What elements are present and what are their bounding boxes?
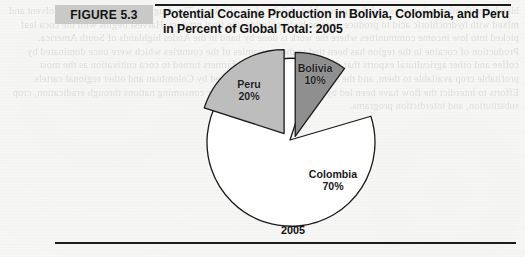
figure-number-badge: FIGURE 5.3 — [55, 5, 153, 24]
figure-number-label: FIGURE 5.3 — [70, 8, 137, 22]
pie-label-colombia-name: Colombia — [296, 168, 370, 180]
pie-chart: Bolivia 10% Peru 20% Colombia 70% 2005 — [178, 40, 408, 240]
figure-bottom-rule — [55, 242, 516, 244]
figure-title-line-2: in Percent of Global Total: 2005 — [163, 22, 513, 37]
pie-label-colombia: Colombia 70% — [296, 168, 370, 193]
pie-label-colombia-value: 70% — [296, 180, 370, 192]
figure-page: blended with other substances and then p… — [0, 0, 525, 257]
pie-label-peru: Peru 20% — [222, 78, 276, 103]
pie-label-peru-name: Peru — [222, 78, 276, 90]
pie-label-bolivia-value: 10% — [286, 74, 344, 86]
pie-label-bolivia: Bolivia 10% — [286, 62, 344, 87]
pie-label-bolivia-name: Bolivia — [286, 62, 344, 74]
figure-title: Potential Cocaine Production in Bolivia,… — [163, 7, 513, 36]
chart-year-label: 2005 — [178, 224, 408, 236]
figure-top-rule — [155, 4, 511, 6]
figure-title-line-1: Potential Cocaine Production in Bolivia,… — [163, 7, 513, 22]
pie-label-peru-value: 20% — [222, 90, 276, 102]
